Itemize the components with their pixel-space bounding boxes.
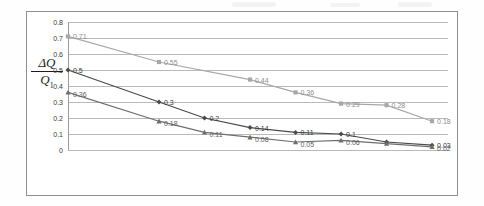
y-axis-tick-label: 0.6: [53, 51, 63, 58]
data-point-label: 0.1: [346, 131, 356, 138]
scan-artifact: [398, 2, 432, 7]
y-axis-tick-label: 0.2: [53, 115, 63, 122]
data-point-label: 0.55: [164, 59, 178, 66]
data-point-marker: [339, 132, 344, 137]
y-axis-tick-label: 0.1: [53, 131, 63, 138]
scan-artifact: [232, 2, 276, 7]
data-point-label: 0.08: [255, 135, 269, 142]
y-axis-tick-label: 0.8: [53, 19, 63, 26]
scan-artifact: [330, 3, 360, 7]
data-point-label: 0.06: [346, 138, 360, 145]
data-point-label: 0.29: [346, 100, 360, 107]
data-point-label: 0.18: [437, 118, 451, 125]
figure-root: ΔQ Q1 00.10.20.30.40.50.60.70.8 0.710.55…: [0, 0, 484, 206]
y-axis-tick-label: 0.5: [53, 67, 63, 74]
data-point-label: 0.11: [301, 129, 314, 136]
data-point-label: 0.71: [73, 33, 87, 40]
data-point-label: 0.36: [73, 90, 87, 97]
plot-area: 00.10.20.30.40.50.60.70.8 0.710.550.440.…: [68, 22, 448, 150]
y-axis-tick-label: 0.7: [53, 35, 63, 42]
data-point-marker: [430, 119, 434, 123]
gridline: [68, 150, 448, 151]
data-point-marker: [339, 102, 343, 106]
y-axis-tick-label: 0.3: [53, 99, 63, 106]
data-point-label: 0.18: [164, 119, 178, 126]
data-point-label: 0.5: [73, 67, 83, 74]
data-point-label: 0.14: [255, 124, 269, 131]
data-point-label: 0.36: [301, 89, 315, 96]
data-point-label: 0.11: [210, 130, 223, 137]
data-point-marker: [248, 125, 253, 130]
data-point-marker: [248, 78, 252, 82]
data-point-label: 0.28: [392, 102, 406, 109]
data-point-label: 0.2: [210, 115, 220, 122]
y-axis-tick-label: 0.4: [53, 83, 63, 90]
y-axis-tick-label: 0: [59, 147, 63, 154]
data-point-marker: [384, 103, 388, 107]
data-point-marker: [293, 130, 298, 135]
data-point-label: 0.3: [164, 99, 174, 106]
data-point-marker: [202, 116, 207, 121]
data-point-marker: [293, 90, 297, 94]
data-point-label: 0.02: [437, 145, 451, 152]
data-point-label: 0.44: [255, 76, 269, 83]
data-point-marker: [66, 34, 70, 38]
data-point-label: 0.05: [301, 140, 315, 147]
data-point-marker: [157, 60, 161, 64]
data-point-marker: [157, 100, 162, 105]
